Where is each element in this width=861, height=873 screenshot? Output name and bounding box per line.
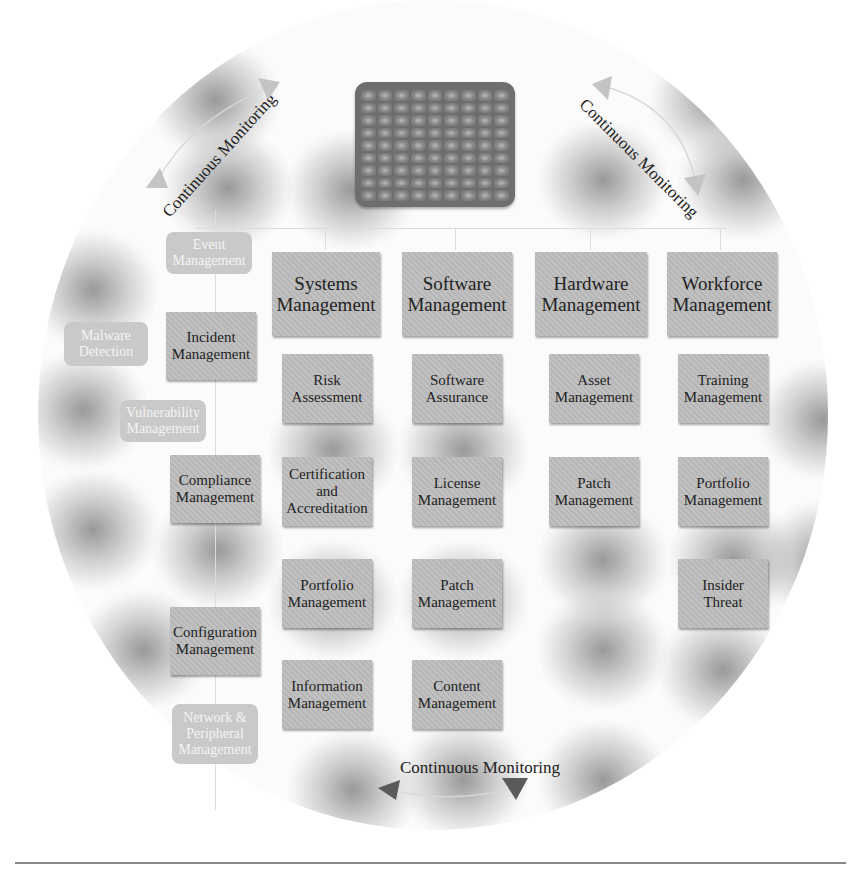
server-unit-icon xyxy=(478,140,493,151)
server-unit-icon xyxy=(444,153,459,164)
server-unit-icon xyxy=(394,190,409,201)
server-unit-icon xyxy=(461,165,476,176)
server-unit-icon xyxy=(411,128,426,139)
box-training-management: Training Management xyxy=(678,354,768,423)
server-unit-icon xyxy=(411,165,426,176)
server-unit-icon xyxy=(394,128,409,139)
server-unit-icon xyxy=(461,90,476,101)
box-certification-accreditation: Certification and Accreditation xyxy=(282,457,372,526)
server-unit-icon xyxy=(478,90,493,101)
server-unit-icon xyxy=(411,140,426,151)
server-unit-icon xyxy=(361,128,376,139)
faded-box-malware-detection: Malware Detection xyxy=(64,322,148,366)
server-unit-icon xyxy=(444,165,459,176)
server-unit-icon xyxy=(461,140,476,151)
server-unit-icon xyxy=(378,103,393,114)
server-unit-icon xyxy=(444,103,459,114)
server-unit-icon xyxy=(444,190,459,201)
box-insider-threat: Insider Threat xyxy=(678,559,768,628)
server-unit-icon xyxy=(378,90,393,101)
server-unit-icon xyxy=(394,165,409,176)
server-unit-icon xyxy=(461,178,476,189)
faded-box-vulnerability-management: Vulnerability Management xyxy=(120,400,206,442)
shade-blob xyxy=(538,590,668,710)
server-unit-icon xyxy=(361,153,376,164)
faded-box-network-peripheral-management: Network & Peripheral Management xyxy=(172,704,258,764)
connector-line xyxy=(325,228,326,250)
server-unit-icon xyxy=(428,165,443,176)
box-information-management: Information Management xyxy=(282,660,372,729)
server-unit-icon xyxy=(361,103,376,114)
server-unit-icon xyxy=(428,190,443,201)
box-patch-management-hardware: Patch Management xyxy=(549,457,639,526)
server-unit-icon xyxy=(444,178,459,189)
server-unit-icon xyxy=(494,90,509,101)
server-unit-icon xyxy=(378,165,393,176)
header-hardware-management: Hardware Management xyxy=(535,252,647,336)
box-patch-management-software: Patch Management xyxy=(412,559,502,628)
server-unit-icon xyxy=(494,165,509,176)
server-unit-icon xyxy=(411,178,426,189)
server-unit-icon xyxy=(378,115,393,126)
box-compliance-management: Compliance Management xyxy=(170,455,260,523)
box-license-management: License Management xyxy=(412,457,502,526)
server-unit-icon xyxy=(494,128,509,139)
server-unit-icon xyxy=(461,153,476,164)
server-unit-icon xyxy=(411,103,426,114)
shade-blob xyxy=(38,470,158,590)
box-content-management: Content Management xyxy=(412,660,502,729)
box-portfolio-management-workforce: Portfolio Management xyxy=(678,457,768,526)
header-software-management: Software Management xyxy=(402,252,512,336)
server-unit-icon xyxy=(478,103,493,114)
server-unit-icon xyxy=(494,190,509,201)
box-configuration-management: Configuration Management xyxy=(170,607,260,675)
connector-line xyxy=(195,228,725,229)
faded-box-event-management: Event Management xyxy=(166,232,252,274)
server-unit-icon xyxy=(394,178,409,189)
server-unit-icon xyxy=(428,153,443,164)
server-unit-icon xyxy=(494,140,509,151)
box-asset-management: Asset Management xyxy=(549,354,639,423)
server-unit-icon xyxy=(361,165,376,176)
shade-blob xyxy=(758,360,828,480)
server-unit-icon xyxy=(461,103,476,114)
server-unit-icon xyxy=(494,153,509,164)
server-unit-icon xyxy=(428,140,443,151)
server-unit-icon xyxy=(378,178,393,189)
server-unit-icon xyxy=(394,90,409,101)
server-unit-icon xyxy=(494,103,509,114)
server-unit-icon xyxy=(394,140,409,151)
header-workforce-management: Workforce Management xyxy=(667,252,777,336)
server-unit-icon xyxy=(361,140,376,151)
server-unit-icon xyxy=(444,128,459,139)
box-risk-assessment: Risk Assessment xyxy=(282,354,372,423)
server-unit-icon xyxy=(494,178,509,189)
server-unit-icon xyxy=(428,90,443,101)
server-unit-icon xyxy=(428,128,443,139)
server-unit-icon xyxy=(478,165,493,176)
server-unit-icon xyxy=(361,90,376,101)
server-unit-icon xyxy=(394,153,409,164)
server-unit-icon xyxy=(378,190,393,201)
header-systems-management: Systems Management xyxy=(272,252,380,336)
server-unit-icon xyxy=(461,115,476,126)
cycle-arrow-top-left xyxy=(140,70,300,200)
server-unit-icon xyxy=(428,115,443,126)
server-unit-icon xyxy=(361,115,376,126)
connector-line xyxy=(720,228,721,250)
server-unit-icon xyxy=(378,140,393,151)
shade-blob xyxy=(658,610,788,730)
server-unit-icon xyxy=(411,153,426,164)
server-unit-icon xyxy=(411,115,426,126)
server-unit-icon xyxy=(361,178,376,189)
server-unit-icon xyxy=(444,115,459,126)
cycle-arrow-top-right xyxy=(570,70,730,200)
server-unit-icon xyxy=(361,190,376,201)
caption-divider xyxy=(15,862,846,864)
box-incident-management: Incident Management xyxy=(166,312,256,380)
server-unit-icon xyxy=(494,115,509,126)
box-portfolio-management-systems: Portfolio Management xyxy=(282,559,372,628)
diagram-canvas: Continuous Monitoring Continuous Monitor… xyxy=(0,0,861,873)
server-unit-icon xyxy=(478,153,493,164)
server-unit-icon xyxy=(444,90,459,101)
